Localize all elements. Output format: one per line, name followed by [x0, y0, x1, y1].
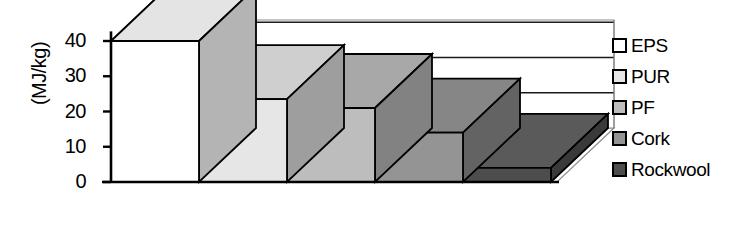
legend-label-eps: EPS	[631, 36, 668, 55]
y-axis-tick-label-30: 30	[40, 65, 86, 85]
legend-swatch-icon-cork	[612, 131, 627, 146]
y-axis-tick-label-20: 20	[40, 101, 86, 121]
legend-item-pf[interactable]: PF	[612, 92, 737, 123]
legend-swatch-icon-eps	[612, 38, 627, 53]
legend-item-pur[interactable]: PUR	[612, 61, 737, 92]
legend-label-pur: PUR	[631, 67, 670, 86]
legend-label-pf: PF	[631, 98, 654, 117]
legend-swatch-icon-pf	[612, 100, 627, 115]
bar-front-face-eps	[111, 41, 199, 182]
legend-label-rockwool: Rockwool	[631, 160, 710, 179]
legend-label-cork: Cork	[631, 129, 670, 148]
legend-swatch-icon-pur	[612, 69, 627, 84]
y-axis-tick-labels: 403020100	[26, 0, 86, 241]
legend-item-rockwool[interactable]: Rockwool	[612, 154, 737, 185]
y-axis-tick-label-10: 10	[40, 136, 86, 156]
chart-container: (MJ/kg) 403020100 EPSPURPFCorkRockwool	[0, 0, 737, 241]
legend-swatch-icon-rockwool	[612, 162, 627, 177]
legend-item-eps[interactable]: EPS	[612, 30, 737, 61]
legend-item-cork[interactable]: Cork	[612, 123, 737, 154]
y-axis-tick-label-40: 40	[40, 30, 86, 50]
y-axis-tick-label-0: 0	[40, 171, 86, 191]
chart-legend: EPSPURPFCorkRockwool	[612, 30, 737, 185]
